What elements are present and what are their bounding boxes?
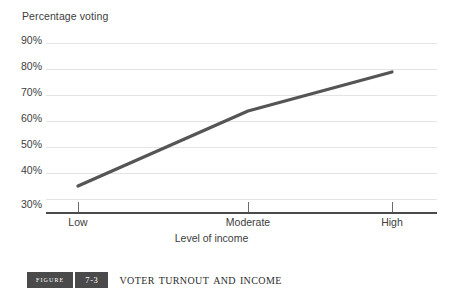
x-tick-low xyxy=(78,202,79,212)
x-tick-high xyxy=(392,202,393,212)
x-tick-moderate xyxy=(248,202,249,212)
figure-caption: Figure 7-3 Voter Turnout and Income xyxy=(27,272,282,288)
x-tick-label-high: High xyxy=(381,216,403,228)
figure-badge: Figure 7-3 xyxy=(27,272,108,288)
x-tick-label-moderate: Moderate xyxy=(226,216,270,228)
figure-label: Figure xyxy=(27,272,73,288)
x-axis-line xyxy=(46,212,437,214)
chart-plot-area: Percentage voting 90% 80% 70% 60% 50% 40… xyxy=(0,0,459,258)
figure-title: Voter Turnout and Income xyxy=(119,272,281,288)
x-axis-title: Level of income xyxy=(0,232,459,244)
figure-number: 7-3 xyxy=(75,272,108,288)
x-tick-label-low: Low xyxy=(68,216,87,228)
figure-container: Percentage voting 90% 80% 70% 60% 50% 40… xyxy=(0,0,459,296)
x-axis-title-text: Level of income xyxy=(175,232,249,244)
